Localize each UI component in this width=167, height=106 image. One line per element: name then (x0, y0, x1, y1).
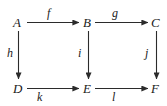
edge-label-g: g (112, 7, 118, 19)
edge-label-f: f (47, 7, 50, 19)
node-label-B: B (83, 16, 91, 29)
edge-label-k: k (37, 91, 42, 103)
commutative-diagram: A B C D E F f g h i j k l (0, 0, 167, 106)
node-label-A: A (13, 16, 21, 29)
node-label-D: D (13, 82, 22, 95)
edge-label-l: l (112, 91, 115, 103)
node-label-E: E (83, 82, 91, 95)
edge-label-j: j (145, 47, 148, 59)
node-label-C: C (151, 16, 160, 29)
edge-label-i: i (78, 47, 81, 59)
node-label-F: F (151, 82, 159, 95)
edge-label-h: h (7, 47, 13, 59)
